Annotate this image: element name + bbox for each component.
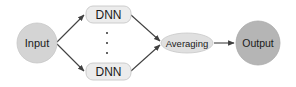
node-input: Input xyxy=(17,23,57,63)
node-output: Output xyxy=(236,21,280,65)
dot xyxy=(106,52,108,54)
ensemble-diagram: Input DNN DNN Averaging Output xyxy=(0,0,296,87)
node-input-label: Input xyxy=(25,37,49,49)
edge-dnn-bottom-to-averaging xyxy=(131,45,160,71)
edge-dnn-top-to-averaging xyxy=(131,15,160,41)
edge-input-to-dnn-top xyxy=(57,15,84,42)
dot xyxy=(106,42,108,44)
edge-input-to-dnn-bottom xyxy=(57,44,84,71)
node-output-label: Output xyxy=(242,37,274,49)
node-dnn-top: DNN xyxy=(86,6,131,23)
node-averaging-label: Averaging xyxy=(166,38,209,49)
node-dnn-bottom-label: DNN xyxy=(96,65,122,79)
dot xyxy=(106,32,108,34)
node-dnn-bottom: DNN xyxy=(86,63,131,80)
node-dnn-top-label: DNN xyxy=(96,8,122,22)
node-averaging: Averaging xyxy=(161,33,213,53)
ellipsis-dots xyxy=(106,32,108,54)
